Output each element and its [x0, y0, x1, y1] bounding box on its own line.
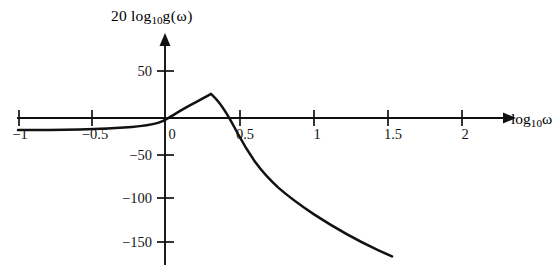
x-tick-label-0: 0: [168, 127, 175, 142]
x-tick-label-1-5: 1.5: [384, 127, 402, 142]
y-tick-label-neg100: −100: [99, 191, 152, 206]
y-tick-label-50: 50: [110, 64, 152, 79]
x-tick-label-neg0-5: −0.5: [82, 127, 108, 142]
y-tick-label-neg50: −50: [105, 148, 152, 163]
x-tick-label-0-5: 0.5: [236, 127, 254, 142]
bode-plot-figure: 20 log10g(ω) log10ω −1 −0.5 0 0.5 1 1.5 …: [0, 0, 556, 265]
x-tick-label-neg1: −1: [12, 127, 27, 142]
x-tick-label-1: 1: [313, 127, 320, 142]
y-axis-title-suffix: g(ω): [163, 7, 193, 24]
x-axis-title-suffix: ω: [542, 110, 553, 127]
x-axis-title: log10ω: [511, 110, 553, 129]
y-axis-arrow-icon: [160, 33, 171, 46]
x-tick-label-2: 2: [461, 127, 468, 142]
y-tick-label-neg150: −150: [99, 235, 152, 250]
x-axis-title-subscript: 10: [531, 117, 542, 129]
y-axis-title-subscript: 10: [151, 14, 162, 26]
x-axis-title-prefix: log: [511, 110, 531, 127]
y-axis-title: 20 log10g(ω): [111, 7, 193, 26]
y-axis-title-prefix: 20 log: [111, 7, 151, 24]
